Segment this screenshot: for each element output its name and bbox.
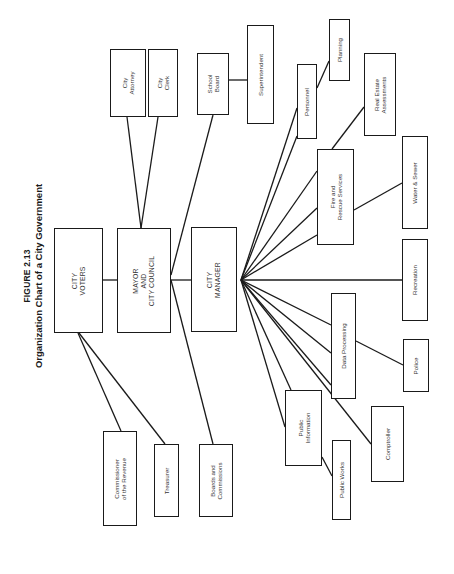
node-water-and-sewer: Water & Sewer bbox=[402, 136, 428, 229]
link-city_voters-to-treasurer bbox=[79, 333, 165, 444]
node-city-clerk: City Clerk bbox=[148, 49, 178, 117]
link-city_manager-to-data_processing bbox=[241, 280, 331, 353]
link-city_manager-to-public_information bbox=[241, 280, 291, 390]
node-city-voters: CITY VOTERS bbox=[54, 228, 103, 333]
link-personnel-to-planning bbox=[317, 61, 329, 88]
link-data_processing-to-police bbox=[356, 341, 403, 365]
node-public-information: Public Information bbox=[285, 390, 322, 466]
node-boards-and-commissions: Boards and Commissions bbox=[199, 444, 233, 517]
node-commissioner-of-the-revenue: Commissioner of the Revenue bbox=[103, 431, 137, 526]
link-public_information-to-public_works bbox=[322, 457, 332, 476]
link-city_voters-to-commissioner_revenue bbox=[78, 333, 121, 431]
link-city_manager-to-fire_rescue bbox=[241, 235, 317, 280]
link-city_manager-to-public_information bbox=[241, 280, 285, 427]
link-city_manager-to-fire_rescue bbox=[241, 171, 317, 280]
link-mayor_council-to-city_clerk bbox=[141, 117, 158, 228]
node-comptroller: Comptroller bbox=[371, 406, 404, 482]
link-city_manager-to-personnel bbox=[241, 136, 297, 280]
node-personnel: Personnel bbox=[297, 64, 317, 139]
node-treasurer: Treasurer bbox=[154, 444, 179, 517]
link-city_manager-to-data_processing bbox=[241, 280, 331, 325]
node-city-attorney: City Attorney bbox=[110, 49, 146, 117]
org-chart-canvas: FIGURE 2.13 Organization Chart of a City… bbox=[0, 0, 454, 574]
node-public-works: Public Works bbox=[332, 440, 351, 520]
node-real-estate-assessments: Real Estate Assessments bbox=[364, 53, 396, 136]
node-police: Police bbox=[403, 339, 429, 392]
node-planning: Planning bbox=[329, 19, 350, 81]
link-city_manager-to-data_processing bbox=[241, 280, 331, 385]
link-fire_rescue-to-real_estate bbox=[332, 107, 364, 149]
node-recreation: Recreation bbox=[402, 239, 428, 321]
link-fire_rescue-to-water_sewer bbox=[354, 183, 402, 210]
node-data-processing: Data Processing bbox=[331, 293, 356, 399]
node-mayor-and-city-council: MAYOR AND CITY COUNCIL bbox=[117, 228, 171, 333]
link-mayor_council-to-city_attorney bbox=[127, 117, 141, 228]
node-fire-and-rescue-services: Fire and Rescue Services bbox=[317, 149, 354, 245]
node-city-manager: CITY MANAGER bbox=[191, 227, 237, 332]
node-school-board: School Board bbox=[197, 53, 229, 115]
node-superintendent: Superintendent bbox=[247, 25, 274, 124]
